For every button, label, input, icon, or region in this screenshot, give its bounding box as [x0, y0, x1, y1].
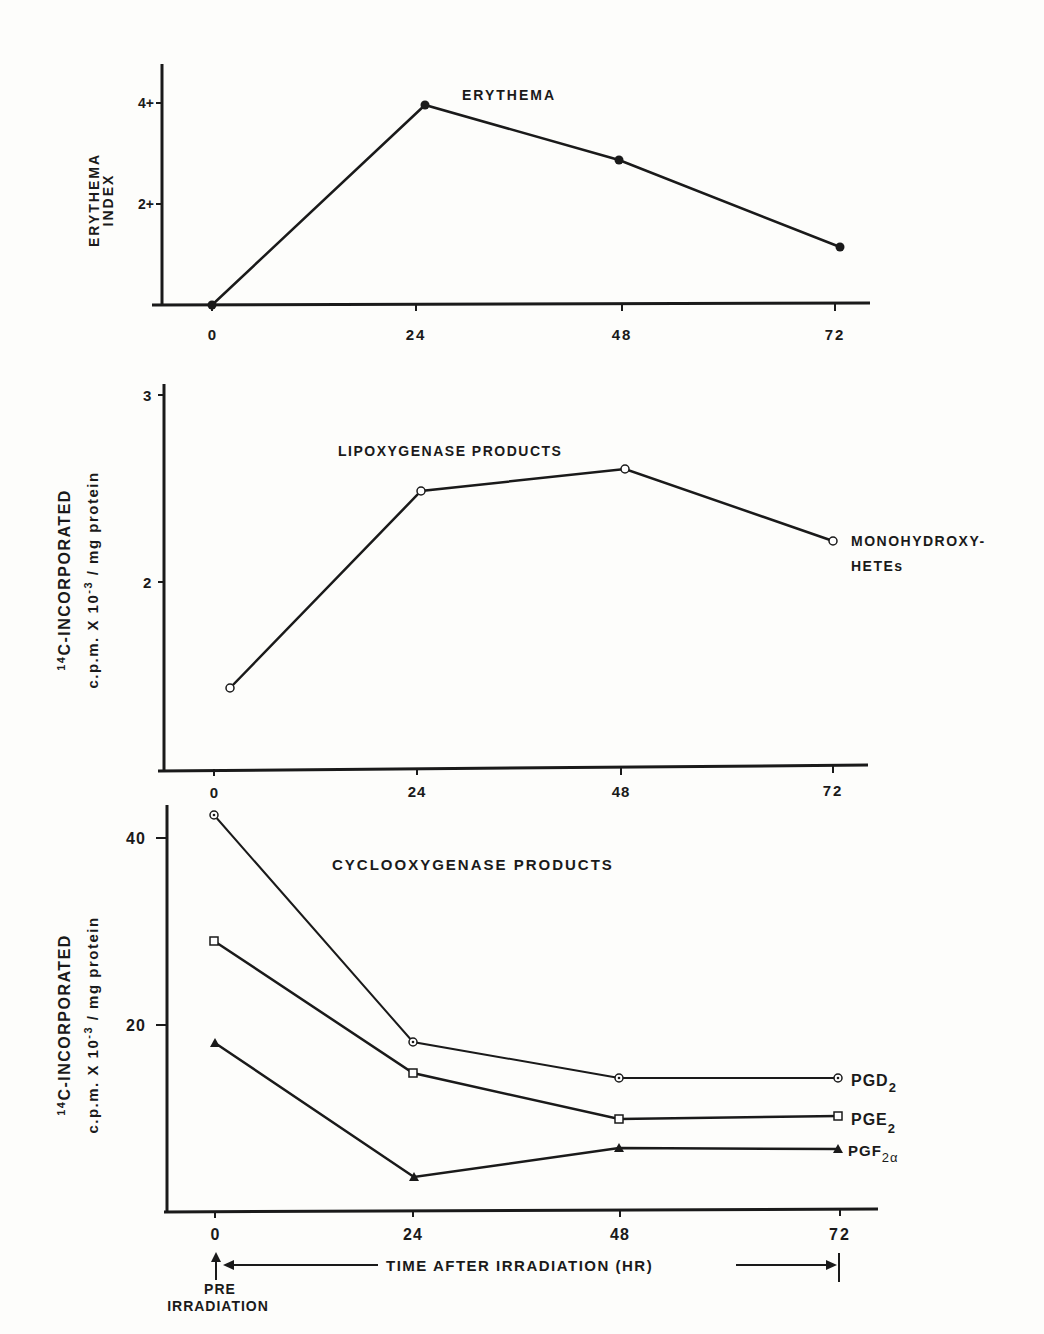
x-axis	[164, 1209, 878, 1212]
x-axis-label: TIME AFTER IRRADIATION (HR)	[386, 1257, 653, 1274]
y-tick-20: 20	[126, 1017, 146, 1034]
x-tick-0: 0	[210, 784, 218, 801]
pge2-label: PGE2	[851, 1111, 896, 1136]
pge2-line	[214, 941, 838, 1119]
y-axis-label-2: INDEX	[100, 174, 116, 227]
arrow-right-icon	[826, 1260, 837, 1270]
cyclooxygenase-chart: 40 20 14C-INCORPORATED c.p.m. X 10-3 / m…	[55, 805, 899, 1314]
pgf2a-line	[215, 1043, 838, 1177]
arrow-up-icon	[211, 1252, 221, 1262]
y-axis-label: 14C-INCORPORATED	[55, 489, 73, 671]
x-axis	[158, 765, 868, 771]
pgd2-line	[214, 815, 838, 1078]
chart-title: LIPOXYGENASE PRODUCTS	[338, 443, 562, 459]
x-tick-48: 48	[612, 326, 633, 343]
x-tick-48: 48	[610, 1226, 630, 1243]
x-tick-0: 0	[211, 1226, 220, 1243]
figure: 4+ 2+ ERYTHEMA INDEX 0 24 48 72 ERYTHEMA…	[0, 0, 1044, 1334]
x-tick-72: 72	[823, 782, 844, 799]
erythema-chart: 4+ 2+ ERYTHEMA INDEX 0 24 48 72 ERYTHEMA	[86, 64, 870, 343]
chart-title: CYCLOOXYGENASE PRODUCTS	[332, 856, 614, 873]
pre-irradiation-label-2: IRRADIATION	[167, 1298, 269, 1314]
y-tick-2: 2	[143, 574, 151, 591]
x-axis	[152, 303, 870, 305]
y-tick-3: 3	[143, 387, 151, 404]
erythema-line	[212, 105, 840, 305]
y-axis-units: c.p.m. X 10-3 / mg protein	[82, 471, 101, 688]
x-tick-24: 24	[403, 1226, 423, 1243]
lipoxygenase-chart: 3 2 14C-INCORPORATED c.p.m. X 10-3 / mg …	[55, 384, 986, 801]
arrow-left-icon	[223, 1260, 234, 1270]
x-tick-48: 48	[612, 783, 631, 800]
x-tick-24: 24	[406, 326, 427, 343]
y-tick-40: 40	[126, 830, 146, 847]
chart-title: ERYTHEMA	[462, 87, 556, 103]
x-tick-24: 24	[408, 783, 427, 800]
pre-irradiation-label: PRE	[204, 1281, 236, 1297]
y-axis-units: c.p.m. X 10-3 / mg protein	[82, 916, 101, 1133]
x-tick-0: 0	[208, 326, 216, 343]
pgf2a-label: PGF2α	[848, 1142, 899, 1165]
y-axis-label: 14C-INCORPORATED	[55, 934, 73, 1116]
pgd2-label: PGD2	[851, 1072, 897, 1095]
x-tick-72: 72	[829, 1226, 851, 1243]
y-tick-2: 2+	[138, 196, 154, 212]
x-tick-72: 72	[825, 326, 846, 343]
y-tick-4: 4+	[138, 95, 154, 111]
series-label-2: HETEs	[851, 558, 904, 574]
hetes-line	[230, 469, 833, 688]
series-label: MONOHYDROXY-	[851, 533, 986, 549]
